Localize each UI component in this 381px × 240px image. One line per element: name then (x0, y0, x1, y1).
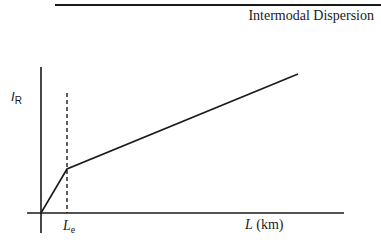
x-axis-label: L (km) (245, 217, 284, 233)
dispersion-curve (41, 74, 298, 213)
dispersion-diagram (0, 0, 381, 240)
le-label: Le (63, 218, 75, 235)
y-axis-label: IR (11, 89, 22, 106)
